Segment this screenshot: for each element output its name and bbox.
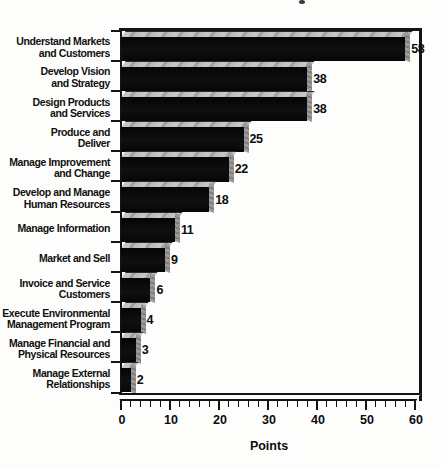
- x-axis-minor-tick: [160, 401, 161, 407]
- y-axis-category-tick: [111, 331, 121, 333]
- category-label: Produce and Deliver: [0, 127, 110, 150]
- x-axis-major-tick: [316, 401, 318, 410]
- bar-end-face: [307, 92, 312, 122]
- x-axis-minor-tick: [287, 401, 288, 407]
- x-axis-minor-tick: [405, 401, 406, 407]
- x-axis-minor-tick: [189, 401, 190, 407]
- bar-end-face: [150, 273, 155, 303]
- x-axis-minor-tick: [395, 401, 396, 407]
- category-label: Develop and Manage Human Resources: [0, 187, 110, 210]
- x-axis-major-tick: [120, 401, 122, 410]
- bar-end-face: [165, 243, 170, 273]
- bar: [121, 157, 229, 182]
- category-label: Execute Environmental Management Program: [0, 308, 110, 331]
- x-axis-title: Points: [121, 439, 417, 453]
- y-axis-category-tick: [111, 211, 121, 213]
- category-label: Design Products and Services: [0, 97, 110, 120]
- category-label: Invoice and Service Customers: [0, 278, 110, 301]
- x-axis-minor-tick: [199, 401, 200, 407]
- bar-value-label: 38: [313, 102, 326, 116]
- category-label: Manage External Relationships: [0, 368, 110, 391]
- bar-value-label: 38: [313, 72, 326, 86]
- x-axis-minor-tick: [228, 401, 229, 407]
- bar: [121, 97, 307, 122]
- y-axis-category-tick: [111, 120, 121, 122]
- y-axis-category-tick: [111, 361, 121, 363]
- scanned-bar-chart-figure: 58Understand Markets and Customers38Deve…: [0, 0, 442, 468]
- bar-end-face: [405, 32, 410, 62]
- bar-chart-plot: 58Understand Markets and Customers38Deve…: [0, 0, 442, 468]
- bar: [121, 127, 244, 152]
- bar-end-face: [244, 123, 249, 153]
- x-axis-minor-tick: [326, 401, 327, 407]
- bar-value-label: 58: [411, 42, 424, 56]
- y-axis-category-tick: [111, 241, 121, 243]
- bar: [121, 278, 150, 303]
- x-axis-tick-label: 50: [352, 413, 382, 427]
- bar-value-label: 3: [142, 343, 148, 357]
- x-axis-tick-label: 30: [254, 413, 284, 427]
- plot-frame-right-border: [419, 28, 422, 401]
- x-axis-tick-label: 20: [205, 413, 235, 427]
- bar-end-face: [209, 183, 214, 213]
- x-axis-tick-label: 40: [303, 413, 333, 427]
- bar: [121, 338, 136, 363]
- bar-value-label: 11: [181, 223, 193, 237]
- x-axis-minor-tick: [336, 401, 337, 407]
- bar-value-label: 9: [171, 253, 177, 267]
- x-axis-minor-tick: [307, 401, 308, 407]
- bar: [121, 248, 165, 273]
- bar-value-label: 2: [137, 373, 143, 387]
- x-axis-minor-tick: [248, 401, 249, 407]
- bar-end-face: [229, 153, 234, 183]
- bar-end-face: [307, 62, 312, 92]
- x-axis-minor-tick: [209, 401, 210, 407]
- bar: [121, 67, 307, 92]
- x-axis-minor-tick: [179, 401, 180, 407]
- category-label: Manage Financial and Physical Resources: [0, 338, 110, 361]
- y-axis-category-tick: [111, 301, 121, 303]
- x-axis-minor-tick: [277, 401, 278, 407]
- x-axis-major-tick: [267, 401, 269, 410]
- x-axis-major-tick: [414, 401, 416, 410]
- x-axis-tick-label: 60: [401, 413, 431, 427]
- category-label: Understand Markets and Customers: [0, 36, 110, 59]
- x-axis-minor-tick: [238, 401, 239, 407]
- bar: [121, 187, 209, 212]
- bar: [121, 218, 175, 243]
- bar-end-face: [175, 213, 180, 243]
- x-axis-minor-tick: [356, 401, 357, 407]
- x-axis-major-tick: [218, 401, 220, 410]
- bar-end-face: [141, 304, 146, 334]
- x-axis-minor-tick: [297, 401, 298, 407]
- x-axis-minor-tick: [258, 401, 259, 407]
- x-axis-minor-tick: [385, 401, 386, 407]
- category-label: Develop Vision and Strategy: [0, 66, 110, 89]
- bar-end-face: [136, 334, 141, 364]
- bar: [121, 37, 405, 62]
- bar: [121, 368, 131, 392]
- x-axis-minor-tick: [346, 401, 347, 407]
- bar-value-label: 25: [250, 132, 263, 146]
- y-axis-category-tick: [111, 180, 121, 182]
- x-axis-tick-label: 10: [156, 413, 186, 427]
- x-axis-minor-tick: [150, 401, 151, 407]
- bar-value-label: 4: [147, 313, 153, 327]
- y-axis-category-tick: [111, 90, 121, 92]
- x-axis-minor-tick: [140, 401, 141, 407]
- x-axis-minor-tick: [375, 401, 376, 407]
- bar-end-face: [131, 364, 136, 394]
- x-axis-major-tick: [365, 401, 367, 410]
- x-axis-minor-tick: [130, 401, 131, 407]
- bar-value-label: 18: [215, 193, 228, 207]
- category-label: Manage Improvement and Change: [0, 157, 110, 180]
- y-axis-category-tick: [111, 30, 121, 32]
- bar: [121, 308, 141, 333]
- bar-value-label: 6: [156, 283, 162, 297]
- y-axis-category-tick: [111, 150, 121, 152]
- bar-value-label: 22: [235, 162, 248, 176]
- category-label: Market and Sell: [0, 253, 110, 265]
- category-label: Manage Information: [0, 223, 110, 235]
- y-axis-category-tick: [111, 60, 121, 62]
- y-axis-category-tick: [111, 271, 121, 273]
